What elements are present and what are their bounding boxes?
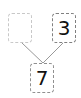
part-left-box[interactable] bbox=[8, 13, 32, 43]
number-bond-diagram: 3 7 bbox=[0, 0, 81, 98]
whole-box: 7 bbox=[30, 63, 54, 93]
part-right-box: 3 bbox=[52, 13, 76, 43]
